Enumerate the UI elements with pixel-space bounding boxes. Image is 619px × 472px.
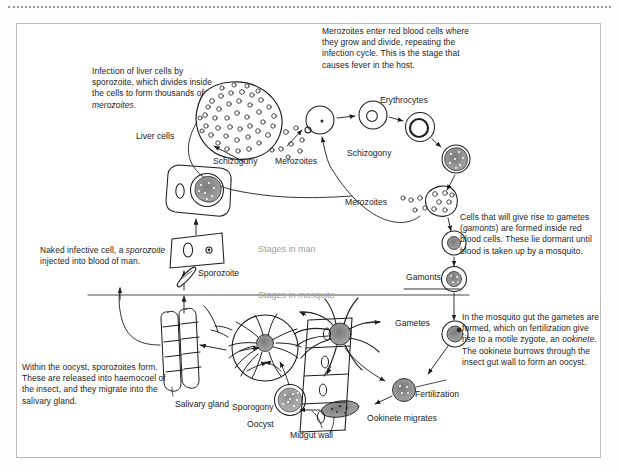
caption-italic-term: ookinete [562, 334, 594, 344]
caption-line: injected [40, 256, 70, 266]
caption-line: Infection of liver cells [92, 66, 172, 76]
label-liver-cells: Liver cells [136, 131, 174, 141]
label-salivary-gland: Salivary gland [175, 399, 229, 409]
caption-line: . [134, 100, 136, 110]
caption-line: gut wall to form an oocyst. [487, 357, 587, 367]
label-sporogony: Sporogony [232, 403, 274, 412]
caption-line: a [119, 245, 126, 255]
label-erythrocytes: Erythrocytes [380, 95, 428, 105]
caption-naked-infective-cell: Naked infective cell, a sporozoite injec… [40, 245, 170, 267]
caption-line: In the mosquito gut the [462, 312, 549, 322]
caption-line: by a mosquito. [527, 246, 583, 256]
caption-line: ) are [496, 223, 514, 233]
caption-gamonts: Cells that will give rise to gametes (ga… [460, 212, 600, 257]
caption-italic-term: gamonts [463, 223, 496, 233]
caption-line: Within the oocyst, sporozoites [22, 362, 136, 372]
caption-merozoites-rbc: Merozoites enter red blood cells where t… [322, 26, 474, 71]
label-merozoites-blood: Merozoites [345, 197, 387, 207]
figure-canvas: Infection of liver cells by sporozoite, … [0, 0, 619, 472]
caption-liver-infection: Infection of liver cells by sporozoite, … [92, 66, 220, 111]
label-midgut-wall: Midgut wall [290, 430, 333, 440]
zone-label-stages-in-man: Stages in man [258, 244, 316, 254]
label-gamonts: Gamonts [406, 272, 441, 282]
label-gametes: Gametes [395, 318, 430, 328]
label-schizogony-blood: Schizogony [347, 148, 391, 158]
label-sporozoite: Sporozoite [198, 268, 239, 278]
label-ookinete-migrates: Ookinete migrates [367, 413, 437, 423]
caption-line: into blood of man. [72, 256, 140, 266]
zone-label-stages-in-mosquito: Stages in mosquito [258, 290, 335, 300]
caption-line: to form thousands of [126, 88, 204, 98]
caption-line: to a motile zygote, an [478, 334, 559, 344]
caption-line: gland. [53, 396, 76, 406]
caption-mosquito-gut: In the mosquito gut the gametes are form… [462, 312, 602, 368]
label-oocyst: Oocyst [247, 419, 274, 429]
caption-italic-term: sporozoite [126, 245, 165, 255]
caption-line: Naked infective cell, [40, 245, 116, 255]
caption-line: cells. These lie dormant [483, 234, 573, 244]
top-dotted-rule [8, 6, 611, 8]
label-fertilization: Fertilization [415, 389, 459, 399]
caption-line: Cells that will give rise [460, 212, 544, 222]
label-merozoites-liver: Merozoites [275, 156, 317, 166]
caption-italic-term: merozoites [92, 100, 134, 110]
label-schizogony-liver: Schizogony [213, 156, 257, 166]
caption-oocyst-sporozoites: Within the oocyst, sporozoites form. The… [22, 362, 174, 407]
